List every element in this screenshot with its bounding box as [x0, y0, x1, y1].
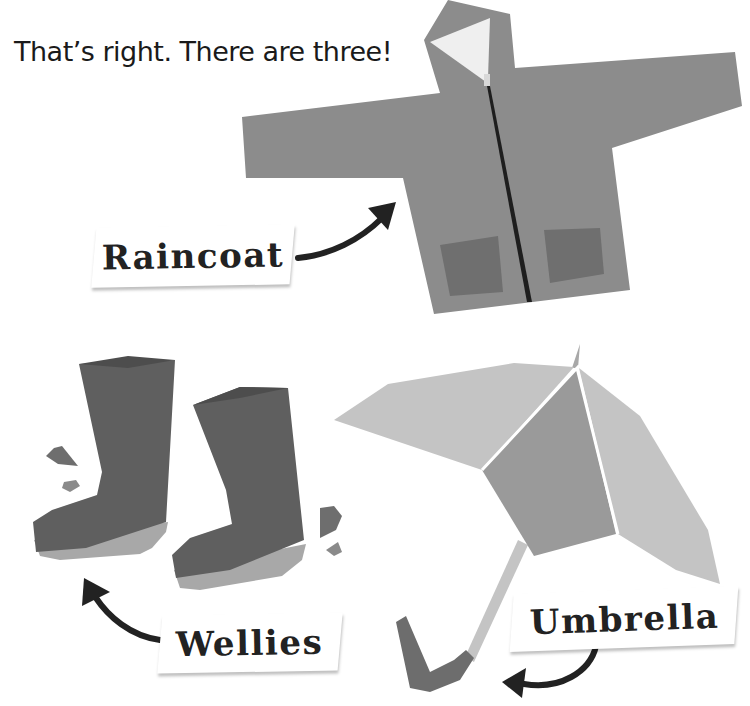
splash-drop: [320, 506, 342, 538]
wellies-label-text: Wellies: [176, 622, 324, 664]
umbrella-label: Umbrella: [510, 586, 739, 652]
wellies-illustration: [33, 356, 342, 590]
umbrella-arrow: [502, 646, 596, 698]
raincoat-label: Raincoat: [91, 224, 295, 287]
wellies-label: Wellies: [157, 612, 342, 673]
splash-drop: [62, 480, 80, 492]
headline-text: That’s right. There are three!: [14, 36, 392, 67]
raincoat-label-text: Raincoat: [102, 234, 285, 277]
umbrella-label-text: Umbrella: [529, 596, 720, 642]
splash-drop: [46, 446, 78, 466]
raincoat-arrow: [298, 202, 396, 258]
raincoat-pocket-left: [440, 236, 503, 296]
umbrella-tip: [572, 344, 580, 368]
umbrella-handle: [396, 616, 474, 692]
wellies-arrow: [82, 578, 160, 640]
splash-drop: [326, 542, 342, 556]
raincoat-pocket-right: [544, 228, 604, 283]
raincoat-zip-pull: [484, 74, 490, 86]
